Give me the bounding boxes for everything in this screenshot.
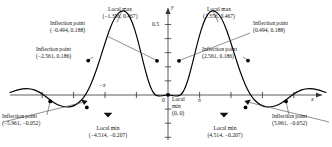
annotation-title: Inflection point xyxy=(202,46,237,53)
annotation-inflection-neg-2561: Inflection point (−2.561, 0.186) xyxy=(36,46,71,60)
marker-infl-neg5961 xyxy=(48,100,52,104)
annotation-coords: (0, 0) xyxy=(172,110,185,117)
annotation-localmin-neg-4514: Local min (−4.514, −0.207) xyxy=(63,125,153,139)
marker-localmin-neg4514 xyxy=(85,106,89,110)
annotation-localmax-neg-1356: Local max (−1.356, 0.467) xyxy=(75,6,165,20)
marker-infl-pos5961 xyxy=(284,100,288,104)
annotation-inflection-neg-0494: Inflection point (−0.494, 0.188) xyxy=(50,20,85,34)
annotation-coords: (2.561, 0.186) xyxy=(202,53,237,60)
annotation-coords: (−1.356, 0.467) xyxy=(75,13,165,20)
annotation-localmin-pos-4514: Local min (4.514, −0.207) xyxy=(180,125,270,139)
annotation-inflection-pos-0494: Inflection point (0.494, 0.188) xyxy=(253,20,288,34)
annotation-title: Inflection point xyxy=(50,20,85,27)
y-axis-arrowhead xyxy=(165,8,170,14)
leader-arrowheads xyxy=(81,100,251,118)
annotation-title-line1: Local xyxy=(172,96,185,103)
annotation-title: Inflection point xyxy=(272,113,307,120)
annotation-coords: (−4.514, −0.207) xyxy=(63,132,153,139)
y-tick-label-0-5: 0.5 xyxy=(152,21,159,27)
marker-infl-pos0494 xyxy=(177,59,181,63)
annotation-coords: (5.961, −0.052) xyxy=(272,120,307,127)
annotation-localmax-pos-1356: Local max (1.356, 0.467) xyxy=(174,6,264,20)
x-tick-label-origin: 0 xyxy=(162,97,165,103)
annotation-inflection-pos-2561: Inflection point (2.561, 0.186) xyxy=(202,46,237,60)
x-axis-arrowhead xyxy=(316,92,322,97)
arrowhead-localmin-left-down xyxy=(104,113,113,118)
annotation-title: Local max xyxy=(174,6,264,13)
function-graph-figure: y x 0.5 0 −π π Inflection point (−0.494,… xyxy=(0,0,332,147)
annotation-title: Inflection point xyxy=(36,46,71,53)
annotation-coords: (4.514, −0.207) xyxy=(180,132,270,139)
annotation-coords: (−0.494, 0.188) xyxy=(50,27,85,34)
x-axis-label: x xyxy=(311,96,314,102)
annotation-inflection-pos-5961: Inflection point (5.961, −0.052) xyxy=(272,113,307,127)
x-tick-label-neg-pi: −π xyxy=(99,82,106,88)
annotation-coords: (1.356, 0.467) xyxy=(174,13,264,20)
marker-localmin-pos4514 xyxy=(244,106,248,110)
marker-infl-neg2561 xyxy=(86,59,90,63)
arrowhead-localmin-right-down xyxy=(220,113,229,118)
annotation-coords: (−2.561, 0.186) xyxy=(36,53,71,60)
annotation-title: Local max xyxy=(75,6,165,13)
annotation-title-line2: min xyxy=(172,103,185,110)
annotation-coords: (0.494, 0.188) xyxy=(253,27,288,34)
marker-infl-neg0494 xyxy=(155,59,159,63)
annotation-inflection-neg-5961: Inflection point (−5.961, −0.052) xyxy=(2,113,40,127)
marker-infl-pos2561 xyxy=(246,59,250,63)
annotation-localmin-origin: Local min (0, 0) xyxy=(172,96,185,116)
annotation-title: Inflection point xyxy=(2,113,40,120)
annotation-title: Inflection point xyxy=(253,20,288,27)
x-tick-label-pi: π xyxy=(198,97,201,103)
marker-localmin-origin xyxy=(166,93,170,97)
leader-infl-bot-left xyxy=(47,101,50,115)
annotation-title: Local min xyxy=(63,125,153,132)
leader-infl-top-left xyxy=(108,37,157,61)
annotation-title: Local min xyxy=(180,125,270,132)
annotation-coords: (−5.961, −0.052) xyxy=(2,120,40,127)
